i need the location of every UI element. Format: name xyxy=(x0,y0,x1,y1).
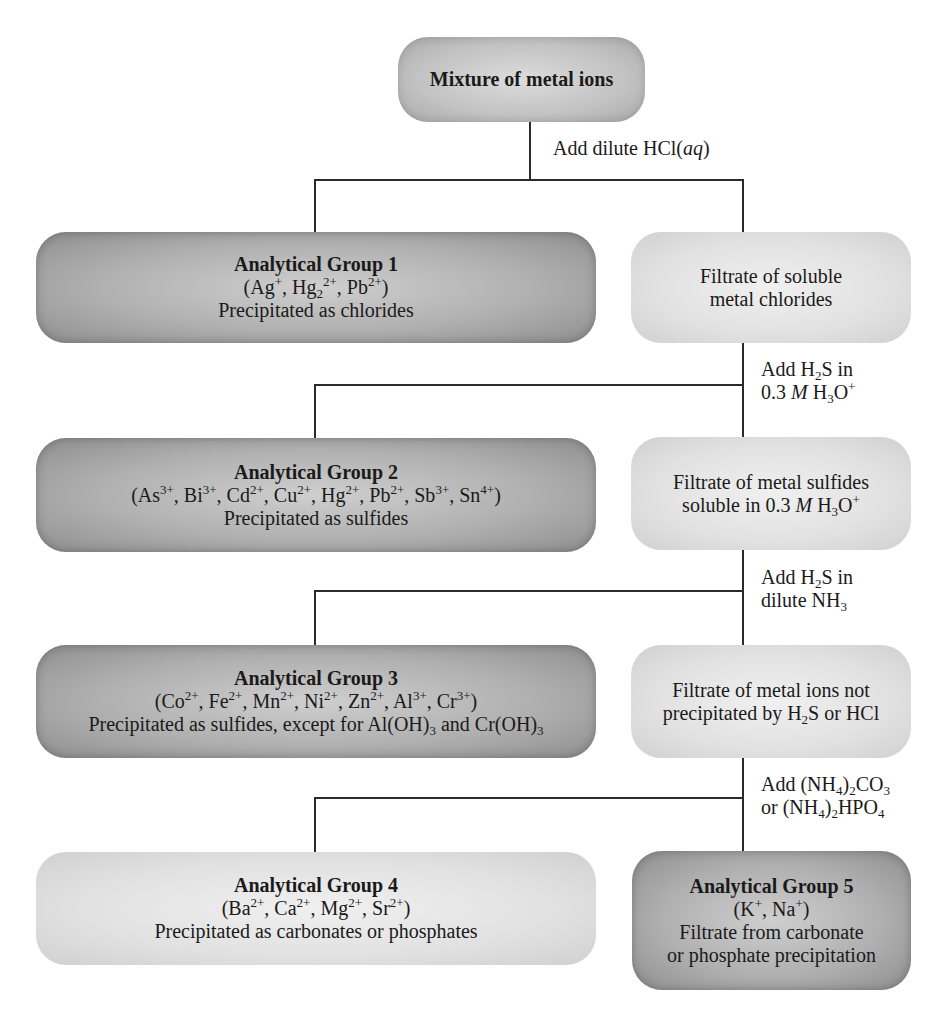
group-2-note: Precipitated as sulfides xyxy=(224,507,408,530)
group-5-note-line-2: or phosphate precipitation xyxy=(667,944,876,967)
group-3-note: Precipitated as sulfides, except for Al(… xyxy=(88,713,543,736)
connector-level1-left xyxy=(314,179,316,233)
analytical-group-5-box: Analytical Group 5 (K+, Na+) Filtrate fr… xyxy=(632,851,911,990)
reagent-step-3: Add H2S indilute NH3 xyxy=(761,566,853,612)
connector-level4-horizontal xyxy=(314,797,744,799)
connector-level1-horizontal xyxy=(314,179,744,181)
group-2-title: Analytical Group 2 xyxy=(234,461,398,484)
filtrate-3-line-2: precipitated by H2S or HCl xyxy=(663,702,879,725)
reagent-step-2: Add H2S in0.3 M H3O+ xyxy=(761,358,855,404)
filtrate-3-box: Filtrate of metal ions not precipitated … xyxy=(631,645,911,758)
mixture-box: Mixture of metal ions xyxy=(398,37,645,122)
group-3-title: Analytical Group 3 xyxy=(234,667,398,690)
group-1-ions: (Ag+, Hg22+, Pb2+) xyxy=(244,276,389,299)
connector-top-vertical xyxy=(529,122,531,181)
connector-level4-trunk xyxy=(742,758,744,852)
connector-level4-left xyxy=(314,797,316,853)
analytical-group-1-box: Analytical Group 1 (Ag+, Hg22+, Pb2+) Pr… xyxy=(36,232,596,343)
filtrate-2-line-2: soluble in 0.3 M H3O+ xyxy=(682,494,860,517)
analytical-group-2-box: Analytical Group 2 (As3+, Bi3+, Cd2+, Cu… xyxy=(36,438,596,552)
group-4-note: Precipitated as carbonates or phosphates xyxy=(154,920,477,943)
filtrate-1-line-1: Filtrate of soluble xyxy=(700,265,842,288)
reagent-step-4: Add (NH4)2CO3or (NH4)2HPO4 xyxy=(761,773,890,819)
analytical-group-3-box: Analytical Group 3 (Co2+, Fe2+, Mn2+, Ni… xyxy=(36,645,596,758)
group-5-title: Analytical Group 5 xyxy=(689,875,853,898)
reagent-step-1: Add dilute HCl(aq) xyxy=(553,137,710,160)
group-2-ions: (As3+, Bi3+, Cd2+, Cu2+, Hg2+, Pb2+, Sb3… xyxy=(131,484,501,507)
group-3-ions: (Co2+, Fe2+, Mn2+, Ni2+, Zn2+, Al3+, Cr3… xyxy=(155,690,478,713)
filtrate-3-line-1: Filtrate of metal ions not xyxy=(672,679,870,702)
filtrate-1-box: Filtrate of soluble metal chlorides xyxy=(631,232,911,343)
connector-level3-trunk xyxy=(742,550,744,646)
mixture-title: Mixture of metal ions xyxy=(430,68,614,91)
group-1-note: Precipitated as chlorides xyxy=(218,299,414,322)
filtrate-2-line-1: Filtrate of metal sulfides xyxy=(673,471,869,494)
connector-level3-horizontal xyxy=(314,590,744,592)
group-5-ions: (K+, Na+) xyxy=(734,898,810,921)
connector-level2-trunk xyxy=(742,343,744,438)
connector-level2-left xyxy=(314,384,316,439)
group-1-title: Analytical Group 1 xyxy=(234,253,398,276)
group-4-title: Analytical Group 4 xyxy=(234,874,398,897)
group-5-note-line-1: Filtrate from carbonate xyxy=(679,921,863,944)
connector-level3-left xyxy=(314,590,316,646)
connector-level2-horizontal xyxy=(314,384,744,386)
analytical-group-4-box: Analytical Group 4 (Ba2+, Ca2+, Mg2+, Sr… xyxy=(36,852,596,965)
connector-level1-right xyxy=(742,179,744,233)
filtrate-2-box: Filtrate of metal sulfides soluble in 0.… xyxy=(631,437,911,550)
group-4-ions: (Ba2+, Ca2+, Mg2+, Sr2+) xyxy=(222,897,411,920)
filtrate-1-line-2: metal chlorides xyxy=(710,288,833,311)
